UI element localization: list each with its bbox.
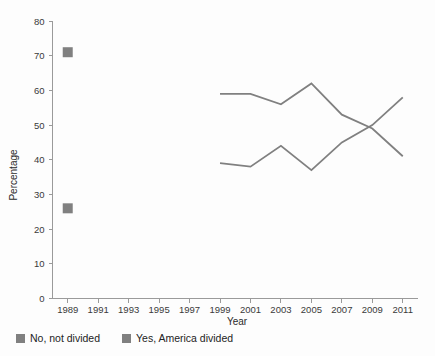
y-tick-label: 20: [34, 224, 45, 235]
x-tick-label: 2009: [362, 304, 383, 315]
x-tick-label: 2001: [240, 304, 261, 315]
x-axis-ticks: [68, 299, 403, 303]
legend-swatch: [122, 334, 131, 343]
legend-item[interactable]: Yes, America divided: [122, 333, 233, 344]
series-marker: [63, 203, 73, 213]
series-marker: [63, 47, 73, 57]
legend-label: No, not divided: [30, 333, 100, 344]
y-axis-title: Percentage: [8, 149, 19, 201]
x-tick-label: 2007: [331, 304, 352, 315]
series-markers: [63, 47, 73, 213]
legend-swatch: [16, 334, 25, 343]
legend-item[interactable]: No, not divided: [16, 333, 100, 344]
x-tick-label: 2003: [270, 304, 291, 315]
x-tick-label: 1997: [179, 304, 200, 315]
x-tick-label: 1989: [57, 304, 78, 315]
y-tick-label: 80: [34, 16, 45, 27]
series-line: [220, 83, 403, 156]
series-lines: [220, 83, 403, 170]
y-axis-tick-labels: 01020304050607080: [34, 16, 45, 305]
y-axis-ticks: [49, 21, 53, 299]
chart-page: 01020304050607080 Percentage 19891991199…: [0, 0, 435, 356]
x-tick-label: 1995: [149, 304, 170, 315]
x-tick-label: 1993: [118, 304, 139, 315]
x-tick-label: 1999: [209, 304, 230, 315]
y-axis: 01020304050607080 Percentage: [8, 16, 53, 305]
x-axis: 1989199119931995199719992001200320052007…: [53, 299, 419, 328]
x-axis-tick-labels: 1989199119931995199719992001200320052007…: [57, 304, 413, 315]
line-chart: 01020304050607080 Percentage 19891991199…: [0, 0, 435, 356]
chart-legend: No, not dividedYes, America divided: [16, 333, 233, 344]
y-tick-label: 30: [34, 189, 45, 200]
y-tick-label: 60: [34, 85, 45, 96]
y-tick-label: 40: [34, 154, 45, 165]
x-axis-title: Year: [227, 316, 248, 327]
legend-label: Yes, America divided: [136, 333, 233, 344]
y-tick-label: 0: [39, 293, 44, 304]
y-tick-label: 70: [34, 50, 45, 61]
series-line: [220, 97, 403, 170]
y-tick-label: 10: [34, 258, 45, 269]
y-tick-label: 50: [34, 120, 45, 131]
x-tick-label: 1991: [88, 304, 109, 315]
x-tick-label: 2011: [393, 304, 413, 315]
x-tick-label: 2005: [301, 304, 322, 315]
